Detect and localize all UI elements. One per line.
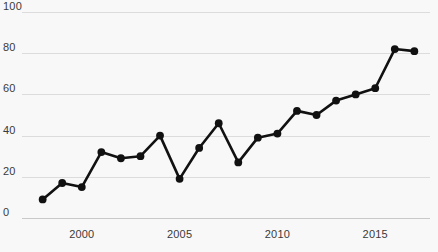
y-tick-label-80: 80 [3,42,16,53]
x-tick-label-2015: 2015 [363,229,388,240]
data-point [176,175,184,183]
data-point [39,196,47,204]
data-point [137,152,145,160]
y-tick-label-100: 100 [3,1,22,12]
data-point [78,183,86,191]
data-point [254,134,262,142]
data-point [332,97,340,105]
data-point [313,111,321,119]
data-point [97,148,105,156]
chart-canvas [0,0,438,252]
x-tick-label-2005: 2005 [167,229,192,240]
plot-area: 020406080100 2000200520102015 [0,0,438,252]
data-point [274,130,282,138]
data-point [352,91,360,99]
x-tick-label-2000: 2000 [69,229,94,240]
series-line-1 [43,49,415,199]
data-point [195,144,203,152]
y-tick-label-60: 60 [3,83,16,94]
y-tick-label-20: 20 [3,166,16,177]
data-point [293,107,301,115]
data-point [391,45,399,53]
y-tick-label-0: 0 [3,207,9,218]
data-point [117,154,125,162]
series-points-1 [39,45,419,203]
line-chart: 020406080100 2000200520102015 [0,0,438,252]
x-tick-label-2010: 2010 [265,229,290,240]
data-point [371,84,379,92]
data-point [58,179,66,187]
data-point [234,158,242,166]
data-point [215,119,223,127]
y-tick-label-40: 40 [3,125,16,136]
data-point [410,47,418,55]
data-point [156,132,164,140]
